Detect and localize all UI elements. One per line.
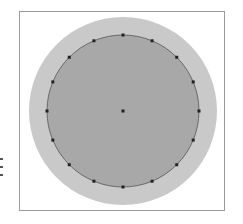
perimeter-point bbox=[192, 80, 195, 83]
perimeter-point bbox=[51, 80, 54, 83]
perimeter-point bbox=[198, 110, 201, 113]
perimeter-point bbox=[151, 39, 154, 42]
perimeter-point bbox=[175, 56, 178, 59]
perimeter-point bbox=[122, 34, 125, 37]
perimeter-point bbox=[51, 139, 54, 142]
perimeter-point bbox=[92, 39, 95, 42]
perimeter-point bbox=[122, 186, 125, 189]
perimeter-point bbox=[68, 56, 71, 59]
perimeter-point bbox=[46, 110, 49, 113]
circle-diagram bbox=[0, 0, 243, 224]
center-point bbox=[122, 110, 125, 113]
perimeter-point bbox=[92, 180, 95, 183]
perimeter-point bbox=[151, 180, 154, 183]
perimeter-point bbox=[175, 163, 178, 166]
perimeter-point bbox=[192, 139, 195, 142]
perimeter-point bbox=[68, 163, 71, 166]
